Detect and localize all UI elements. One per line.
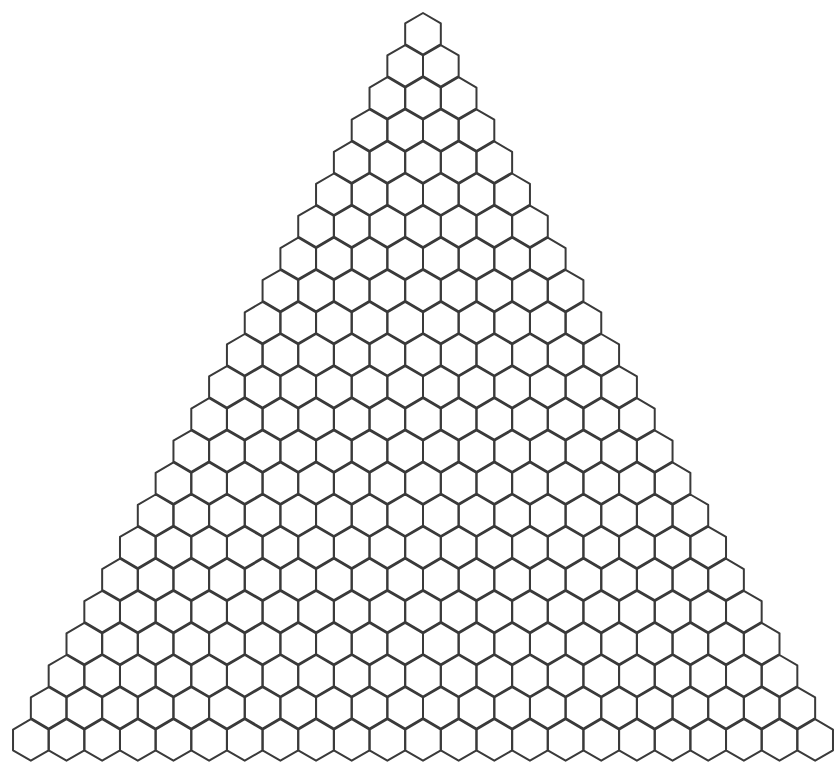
hexagon-cell bbox=[298, 719, 334, 761]
hexagon-cell bbox=[476, 719, 512, 761]
hexagon-triangle-grid bbox=[0, 0, 839, 779]
hexagon-cell bbox=[441, 719, 477, 761]
hexagon-cell bbox=[334, 719, 370, 761]
hexagon-cell bbox=[512, 719, 548, 761]
hexagon-cell bbox=[690, 719, 726, 761]
hexagon-cell bbox=[191, 719, 227, 761]
hexagon-cell bbox=[227, 719, 263, 761]
hexagon-cell bbox=[13, 719, 49, 761]
hexagon-cell bbox=[263, 719, 299, 761]
hexagon-cell bbox=[619, 719, 655, 761]
hexagon-cell bbox=[49, 719, 85, 761]
hexagon-cell bbox=[548, 719, 584, 761]
hexagon-cell bbox=[405, 719, 441, 761]
hexagon-cell bbox=[84, 719, 120, 761]
hexagon-cell bbox=[583, 719, 619, 761]
hexagon-cell bbox=[370, 719, 406, 761]
hexagon-cell bbox=[762, 719, 798, 761]
hexagon-cell bbox=[797, 719, 833, 761]
hexagon-cell bbox=[120, 719, 156, 761]
hexagon-cell bbox=[655, 719, 691, 761]
hexagon-cell bbox=[156, 719, 192, 761]
hexagon-cell bbox=[726, 719, 762, 761]
